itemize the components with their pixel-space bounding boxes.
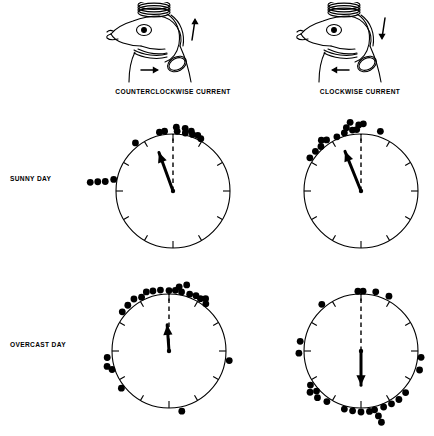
data-point: [396, 396, 403, 403]
data-point: [104, 354, 111, 361]
data-point: [378, 419, 385, 426]
row-label-sunny-day: SUNNY DAY: [10, 175, 51, 182]
data-point: [360, 288, 367, 295]
data-point: [386, 293, 393, 300]
data-point: [143, 289, 150, 296]
circular-plot-svg: [86, 268, 252, 434]
data-point: [178, 408, 185, 415]
data-point: [87, 179, 94, 186]
axis-tick: [387, 142, 390, 147]
axis-tick: [145, 142, 148, 147]
axis-tick: [312, 323, 317, 326]
data-point: [333, 133, 340, 140]
data-point: [186, 291, 193, 298]
data-point: [150, 288, 157, 295]
data-point: [318, 301, 325, 308]
axis-tick: [405, 323, 410, 326]
data-point: [341, 130, 348, 137]
axis-tick: [213, 323, 218, 326]
axis-tick: [333, 235, 336, 240]
axis-tick: [387, 395, 390, 400]
data-point: [341, 406, 348, 413]
axis-tick: [199, 235, 202, 240]
column-caption-counterclockwise: COUNTERCLOCKWISE CURRENT: [88, 88, 258, 95]
data-point: [166, 287, 173, 294]
axis-tick: [312, 377, 317, 380]
axis-tick: [217, 163, 222, 166]
data-point: [307, 389, 314, 396]
data-point: [131, 296, 138, 303]
axis-tick: [405, 217, 410, 220]
data-point: [157, 287, 164, 294]
data-point: [388, 400, 395, 407]
data-point: [360, 120, 367, 127]
circular-plot-svg: [278, 108, 434, 274]
data-point: [318, 137, 325, 144]
axis-tick: [387, 302, 390, 307]
data-point: [307, 382, 314, 389]
data-point: [110, 176, 117, 183]
data-point: [156, 129, 163, 136]
data-point: [138, 294, 145, 301]
data-point: [226, 357, 233, 364]
data-point: [109, 366, 116, 373]
axis-tick: [217, 217, 222, 220]
circular-plot-sunny-counterclockwise: [90, 108, 256, 274]
row-label-overcast-day: OVERCAST DAY: [10, 341, 66, 348]
data-point: [124, 302, 131, 309]
axis-tick: [333, 395, 336, 400]
axis-tick: [141, 302, 144, 307]
axis-tick: [145, 235, 148, 240]
data-point: [202, 300, 209, 307]
data-point: [402, 389, 409, 396]
data-point: [371, 406, 378, 413]
data-point: [182, 130, 189, 137]
data-point: [380, 404, 387, 411]
axis-tick: [213, 377, 218, 380]
axis-tick: [124, 163, 129, 166]
data-point: [416, 367, 423, 374]
axis-tick: [120, 377, 125, 380]
data-point: [94, 178, 101, 185]
data-point: [353, 126, 360, 133]
mean-vector-arrow: [356, 349, 365, 385]
data-point: [118, 385, 125, 392]
bird-head-with-coil-icon-counterclockwise: [105, 2, 220, 88]
axis-tick: [312, 217, 317, 220]
column-caption-clockwise: CLOCKWISE CURRENT: [285, 88, 434, 95]
data-point: [183, 282, 190, 289]
data-point: [358, 409, 365, 416]
data-point: [314, 394, 321, 401]
axis-tick: [141, 395, 144, 400]
circular-plot-svg: [90, 108, 256, 274]
figure-canvas: COUNTERCLOCKWISE CURRENT CLOCKWISE CURRE…: [0, 0, 434, 436]
axis-tick: [333, 302, 336, 307]
data-point: [119, 308, 126, 315]
axis-tick: [405, 377, 410, 380]
axis-tick: [120, 323, 125, 326]
data-point: [306, 154, 313, 161]
data-point: [297, 338, 304, 345]
data-point: [296, 350, 303, 357]
data-point: [347, 119, 354, 126]
axis-tick: [195, 302, 198, 307]
data-point: [318, 143, 325, 150]
axis-tick: [405, 163, 410, 166]
data-point: [349, 407, 356, 414]
data-point: [418, 354, 425, 361]
data-point: [372, 288, 379, 295]
axis-tick: [312, 163, 317, 166]
axis-tick: [199, 142, 202, 147]
circular-plot-overcast-counterclockwise: [86, 268, 252, 434]
data-point: [102, 178, 109, 185]
data-point: [312, 148, 319, 155]
bird-head-with-coil-icon-clockwise: [295, 2, 410, 88]
data-point: [197, 135, 204, 142]
data-point: [174, 128, 181, 135]
data-point: [313, 388, 320, 395]
data-point: [375, 413, 382, 420]
circular-plot-svg: [278, 268, 434, 434]
circular-plot-sunny-clockwise: [278, 108, 434, 274]
axis-tick: [387, 235, 390, 240]
circular-plot-overcast-clockwise: [278, 268, 434, 434]
